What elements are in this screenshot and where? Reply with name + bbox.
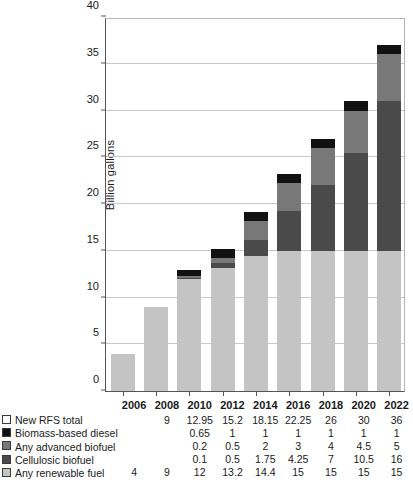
column-header-2006: 2006 [118, 396, 151, 413]
bar-segment [211, 263, 235, 268]
bar-segment [311, 251, 335, 391]
y-tick-label: 10 [87, 280, 99, 292]
y-tick-label: 15 [87, 233, 99, 245]
table-cell: 9 [151, 466, 184, 479]
bar-2016[interactable] [277, 19, 301, 391]
bar-segment [344, 101, 368, 110]
legend-label: Any advanced biofuel [15, 441, 115, 453]
bar-segment [244, 212, 268, 221]
table-row: Cellulosic biofuel0.10.51.754.25710.516 [0, 453, 413, 466]
y-tick-mark [101, 249, 106, 250]
y-tick-label: 20 [87, 186, 99, 198]
bar-segment [177, 279, 201, 391]
bar-2008[interactable] [144, 19, 168, 391]
bar-segment [344, 153, 368, 251]
y-tick-label: 0 [93, 373, 99, 385]
table-cell: 13.2 [216, 466, 249, 479]
legend-entry[interactable]: New RFS total [0, 413, 118, 426]
bar-segment [177, 276, 201, 278]
bar-2022[interactable] [377, 19, 401, 391]
table-cell: 4 [315, 439, 348, 452]
bar-segment [377, 54, 401, 101]
table-cell: 15 [282, 466, 315, 479]
table-cell: 0.5 [216, 439, 249, 452]
legend-label: New RFS total [15, 414, 83, 426]
table-cell: 1.75 [249, 453, 282, 466]
legend-swatch-icon [2, 441, 11, 450]
legend-entry[interactable]: Cellulosic biofuel [0, 453, 118, 466]
legend-label: Cellulosic biofuel [15, 454, 94, 466]
bar-2014[interactable] [244, 19, 268, 391]
table-cell: 15 [315, 466, 348, 479]
legend-swatch-icon [2, 455, 11, 464]
table-cell: 12 [183, 466, 216, 479]
legend-entry[interactable]: Any advanced biofuel [0, 439, 118, 452]
bar-segment [177, 278, 201, 279]
bar-segment [211, 258, 235, 263]
bar-segment [211, 268, 235, 391]
bar-segment [277, 211, 301, 251]
column-header-2020: 2020 [347, 396, 380, 413]
table-cell: 0.2 [183, 439, 216, 452]
y-tick-label: 40 [87, 0, 99, 11]
column-header-2016: 2016 [282, 396, 315, 413]
y-tick-mark [101, 390, 106, 391]
column-header-2010: 2010 [183, 396, 216, 413]
table-cell: 15.2 [216, 413, 249, 426]
bar-segment [277, 183, 301, 211]
bar-2010[interactable] [177, 19, 201, 391]
table-row: Any renewable fuel491213.214.415151515 [0, 466, 413, 479]
bar-2006[interactable] [111, 19, 135, 391]
table-cell: 10.5 [347, 453, 380, 466]
table-cell: 1 [315, 426, 348, 439]
plot-area: Billion gallons 0510152025303540 [105, 18, 405, 392]
data-table: 200620082010201220142016201820202022 New… [0, 396, 413, 479]
y-tick-mark [101, 109, 106, 110]
table-cell [151, 439, 184, 452]
bar-2020[interactable] [344, 19, 368, 391]
table-cell: 16 [380, 453, 413, 466]
table-cell: 1 [282, 426, 315, 439]
table-cell: 1 [216, 426, 249, 439]
bar-segment [377, 101, 401, 251]
table-cell [151, 426, 184, 439]
table-cell: 0.1 [183, 453, 216, 466]
bar-segment [144, 307, 168, 391]
bar-2018[interactable] [311, 19, 335, 391]
table-cell [151, 453, 184, 466]
table-cell: 30 [347, 413, 380, 426]
y-tick-label: 30 [87, 93, 99, 105]
table-cell: 4.5 [347, 439, 380, 452]
column-header-2018: 2018 [315, 396, 348, 413]
legend-swatch-icon [2, 415, 11, 424]
y-tick-label: 25 [87, 139, 99, 151]
table-cell [118, 439, 151, 452]
table-cell: 1 [380, 426, 413, 439]
table-cell: 2 [249, 439, 282, 452]
y-tick-mark [101, 343, 106, 344]
column-header-2022: 2022 [380, 396, 413, 413]
legend-label: Any renewable fuel [15, 467, 104, 479]
table-cell: 22.25 [282, 413, 315, 426]
bar-segment [311, 148, 335, 185]
legend-swatch-icon [2, 468, 11, 477]
table-corner-cell [0, 396, 118, 413]
legend-swatch-icon [2, 428, 11, 437]
stacked-bar-chart-figure: Billion gallons 0510152025303540 2006200… [0, 0, 413, 486]
table-cell: 18.15 [249, 413, 282, 426]
table-cell: 15 [380, 466, 413, 479]
y-tick-label: 35 [87, 46, 99, 58]
legend-entry[interactable]: Any renewable fuel [0, 466, 118, 479]
bar-segment [377, 251, 401, 391]
bar-segment [177, 270, 201, 276]
legend-entry[interactable]: Biomass-based diesel [0, 426, 118, 439]
bar-segment [244, 240, 268, 256]
y-tick-mark [101, 203, 106, 204]
bar-segment [377, 45, 401, 54]
y-tick-mark [101, 296, 106, 297]
table-cell: 5 [380, 439, 413, 452]
table-row: Any advanced biofuel0.20.52344.55 [0, 439, 413, 452]
table-cell [118, 426, 151, 439]
column-header-2008: 2008 [151, 396, 184, 413]
bar-2012[interactable] [211, 19, 235, 391]
